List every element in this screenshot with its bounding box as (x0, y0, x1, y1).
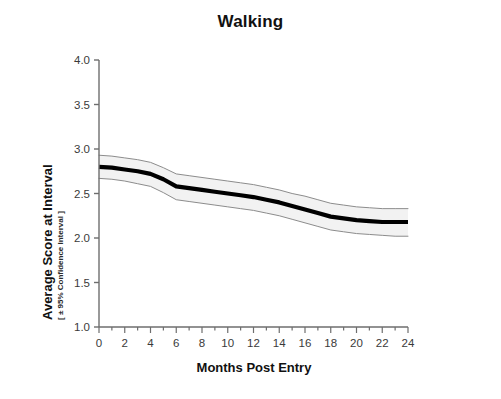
svg-text:2: 2 (122, 337, 128, 349)
svg-text:1.0: 1.0 (74, 321, 90, 333)
svg-text:22: 22 (376, 337, 389, 349)
chart-figure: Walking Average Score at Interval [ ± 95… (0, 0, 501, 399)
svg-text:10: 10 (221, 337, 234, 349)
svg-text:2.5: 2.5 (74, 188, 90, 200)
svg-text:1.5: 1.5 (74, 277, 90, 289)
svg-text:3.0: 3.0 (74, 143, 90, 155)
svg-text:24: 24 (402, 337, 415, 349)
svg-text:8: 8 (199, 337, 205, 349)
svg-text:16: 16 (299, 337, 312, 349)
x-axis-ticks: 024681012141618202224 (96, 327, 415, 349)
svg-text:12: 12 (247, 337, 260, 349)
svg-text:4.0: 4.0 (74, 54, 90, 66)
svg-text:18: 18 (324, 337, 337, 349)
svg-text:4: 4 (147, 337, 154, 349)
y-axis-ticks: 1.01.52.02.53.03.54.0 (74, 54, 99, 333)
svg-text:0: 0 (96, 337, 102, 349)
svg-text:3.5: 3.5 (74, 99, 90, 111)
svg-text:14: 14 (273, 337, 286, 349)
svg-text:2.0: 2.0 (74, 232, 90, 244)
plot-area: 1.01.52.02.53.03.54.0 024681012141618202… (0, 0, 501, 399)
svg-text:20: 20 (350, 337, 363, 349)
svg-text:6: 6 (173, 337, 179, 349)
